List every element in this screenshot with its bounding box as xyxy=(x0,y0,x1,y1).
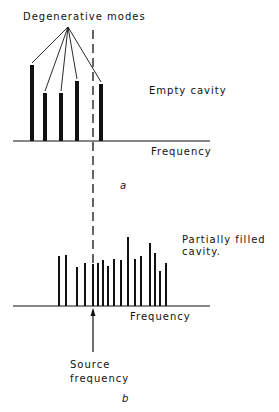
mode-bar xyxy=(30,65,34,141)
frequency-axis-label-b: Frequency xyxy=(130,311,191,323)
mode-bar xyxy=(76,267,78,306)
mode-bar xyxy=(149,243,151,306)
mode-bar xyxy=(65,255,67,306)
mode-bar xyxy=(127,237,129,306)
partially-filled-label: Partially filled xyxy=(182,234,266,246)
empty-cavity-label: Empty cavity xyxy=(149,85,227,97)
partially-filled-label-cont: cavity. xyxy=(182,246,221,258)
source-label: Source xyxy=(70,359,110,371)
mode-bar xyxy=(113,259,115,306)
frequency-axis-label-a: Frequency xyxy=(151,146,212,158)
panel-b-label: b xyxy=(122,393,128,405)
arrow-head-icon xyxy=(91,308,96,316)
mode-bar xyxy=(102,260,104,306)
mode-bar xyxy=(140,256,142,306)
mode-bar xyxy=(43,93,47,141)
mode-bar xyxy=(99,84,103,141)
cavity-mode-diagram xyxy=(0,0,279,412)
mode-bar xyxy=(165,263,167,306)
mode-bar xyxy=(107,266,109,306)
mode-bar xyxy=(84,263,86,306)
mode-bar xyxy=(59,93,63,141)
mode-bar xyxy=(92,264,94,306)
pointer-line xyxy=(32,27,68,63)
degenerative-modes-label: Degenerative modes xyxy=(23,11,146,23)
mode-bar xyxy=(154,253,156,306)
mode-bar xyxy=(159,271,161,306)
mode-bar xyxy=(120,260,122,306)
mode-bar xyxy=(97,263,99,306)
mode-bar xyxy=(134,259,136,306)
panel-a-label: a xyxy=(120,180,126,192)
mode-bar xyxy=(58,256,60,306)
mode-bar xyxy=(75,81,79,141)
source-frequency-label: frequency xyxy=(70,373,129,385)
